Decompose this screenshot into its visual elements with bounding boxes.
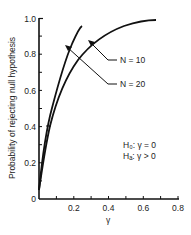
series-n10-curve (39, 20, 156, 190)
x-axis-label: γ (106, 215, 111, 225)
n10-annotation-arrow (88, 40, 117, 60)
legend-n20-label: N = 20 (120, 79, 146, 89)
n20-annotation-arrow (65, 45, 117, 84)
y-tick-label: 0 (31, 194, 36, 204)
x-tick-label: 0.8 (172, 203, 184, 213)
y-tick-label: 0.2 (24, 158, 36, 168)
y-tick-label: 0.8 (24, 49, 36, 59)
chart: 0 0.2 0.4 0.6 0.8 1.0 0.2 0.4 0.6 0.8 γ … (0, 0, 191, 235)
y-axis-label: Probability of rejecting null hypothesis (7, 37, 17, 179)
y-tick-label: 1.0 (24, 14, 36, 24)
hypothesis-alt: Hₐ: γ > 0 (123, 151, 156, 161)
x-tick-label: 0.4 (103, 203, 115, 213)
y-tick-label: 0.6 (24, 86, 36, 96)
x-tick-label: 0.2 (68, 203, 80, 213)
y-tick-label: 0.4 (24, 122, 36, 132)
x-tick-label: 0.6 (137, 203, 149, 213)
legend-n10-label: N = 10 (120, 55, 146, 65)
hypothesis-null: H₀: γ = 0 (123, 140, 156, 150)
series-n20-curve (39, 26, 82, 190)
